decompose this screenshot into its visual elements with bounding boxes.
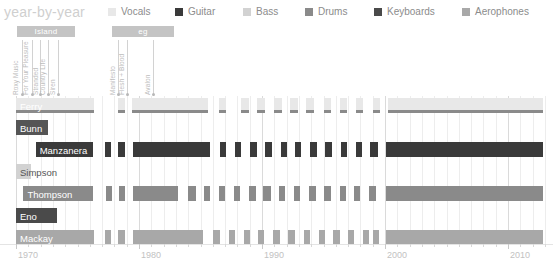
album-title: Roxy Music [12,60,19,95]
legend-swatch-icon [305,8,313,16]
album-pointer-line [127,40,128,96]
album-title: For Your Pleasure [22,41,29,95]
activity-segment [294,186,300,201]
activity-segment-accent [306,110,313,113]
axis-tick-minor [225,244,226,247]
activity-segment [249,186,256,201]
activity-segment [229,230,235,245]
axis-tick-minor [348,244,349,247]
activity-segment [234,186,240,201]
legend-item-aerophones[interactable]: Aerophones [462,6,529,17]
activity-segment-accent [132,110,208,113]
activity-segment [325,142,332,157]
axis-tick-minor [422,244,423,247]
axis-tick-minor [360,244,361,247]
legend-item-vocals[interactable]: Vocals [108,6,150,17]
album-pointer-line [153,40,154,96]
axis-tick-label: 1990 [264,250,284,260]
activity-segment [265,142,272,157]
legend-label: Bass [256,6,278,17]
legend-item-drums[interactable]: Drums [305,6,347,17]
activity-segment [295,142,301,157]
legend-label: Vocals [121,6,150,17]
axis-tick-major [508,244,509,249]
axis-tick-minor [520,244,521,247]
timeline-row-ferry[interactable] [0,98,553,113]
axis-tick-minor [287,244,288,247]
timeline-row-mackay[interactable] [0,230,553,245]
activity-segment [119,186,125,201]
timeline-row-thompson[interactable] [0,186,553,201]
activity-segment [356,142,362,157]
activity-segment-accent [356,110,363,113]
row-label-mackay: Mackay [20,234,53,244]
legend-item-bass[interactable]: Bass [243,6,278,17]
axis-tick-minor [78,244,79,247]
era-band-label: Island [34,27,57,36]
activity-segment-accent [388,110,543,113]
axis-tick-minor [114,244,115,247]
axis-tick-minor [188,244,189,247]
activity-segment [370,142,377,157]
axis-tick-minor [447,244,448,247]
activity-segment [188,186,195,201]
era-band-island: Island [17,26,75,37]
timeline-row-bunn[interactable] [0,120,553,135]
activity-segment [105,142,111,157]
axis-tick-minor [483,244,484,247]
legend-item-guitar[interactable]: Guitar [175,6,215,17]
album-title: Stranded [32,68,39,95]
legend-swatch-icon [462,8,470,16]
activity-segment [133,186,179,201]
axis-tick-minor [299,244,300,247]
axis-tick-minor [471,244,472,247]
activity-segment [106,186,112,201]
activity-segment [340,186,346,201]
legend-item-keyboards[interactable]: Keyboards [374,6,435,17]
row-label-simpson: Simpson [20,168,57,178]
axis-tick-minor [496,244,497,247]
timeline-row-eno[interactable] [0,208,553,223]
album-title: Siren [49,79,56,95]
axis-tick-minor [373,244,374,247]
axis-tick-major [139,244,140,249]
axis-tick-minor [65,244,66,247]
activity-segment [288,230,295,245]
row-label-eno: Eno [20,212,37,222]
row-label-bunn: Bunn [20,124,42,134]
activity-segment [279,186,285,201]
row-label-thompson: Thompson [27,190,72,200]
activity-segment [386,186,542,201]
activity-segment-accent [373,110,380,113]
album-title: Avalon [144,75,151,95]
axis-tick-minor [176,244,177,247]
album-title: Manifesto [109,66,116,95]
axis-tick-label: 1980 [141,250,161,260]
activity-segment [263,186,270,201]
timeline-row-simpson[interactable] [0,164,553,179]
era-band-eg: eg [112,26,174,37]
activity-segment [281,142,287,157]
activity-segment [304,230,310,245]
activity-segment [369,186,376,201]
album-pointer-line [58,40,59,96]
activity-segment [341,142,347,157]
axis-tick-minor [250,244,251,247]
axis-tick-major [262,244,263,249]
axis-tick-minor [213,244,214,247]
axis-tick-label: 2010 [510,250,530,260]
activity-segment [324,186,331,201]
legend-label: Keyboards [387,6,435,17]
axis-tick-major [16,244,17,249]
activity-segment [348,230,354,245]
axis-tick-minor [311,244,312,247]
axis-tick-minor [151,244,152,247]
axis-tick-minor [127,244,128,247]
activity-segment [204,186,210,201]
axis-tick-minor [237,244,238,247]
timeline-plot: FerryBunnManzaneraSimpsonThompsonEnoMack… [0,96,553,244]
axis-tick-minor [533,244,534,247]
axis-tick-minor [545,244,546,247]
axis-tick-minor [410,244,411,247]
axis-tick-minor [102,244,103,247]
